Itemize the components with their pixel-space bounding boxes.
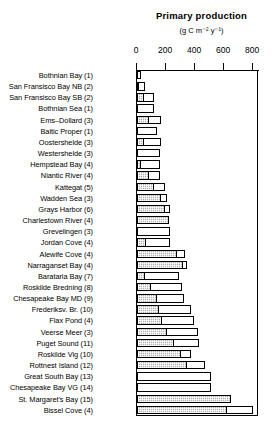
bar-segment-hatched xyxy=(137,361,187,369)
bar-row: St. Margaret's Bay (15) xyxy=(0,394,273,405)
bar-segment-open xyxy=(177,250,185,258)
bar-segment-open xyxy=(146,238,171,246)
stacked-bar xyxy=(137,272,179,280)
bar-segment-open xyxy=(174,339,199,347)
bar-segment-open xyxy=(139,82,145,90)
bar-segment-open xyxy=(149,116,161,124)
bar-row-label: Rottnest Island (12) xyxy=(30,360,94,371)
x-axis-tick-mark xyxy=(165,63,166,70)
bar-row-label: Wadden Sea (3) xyxy=(40,193,93,204)
bar-segment-open xyxy=(137,127,157,135)
x-axis-tick-mark xyxy=(136,63,137,70)
x-axis-tick-label: 0 xyxy=(134,45,139,55)
bar-segment-open xyxy=(145,272,179,280)
bar-row: Bothnian Bay (1) xyxy=(0,70,273,81)
bar-segment-open xyxy=(165,205,171,213)
stacked-bar xyxy=(137,383,211,391)
bar-row: San Fransisco Bay NB (2) xyxy=(0,81,273,92)
bar-row-label: Bothnian Bay (1) xyxy=(39,70,93,81)
bar-row-label: Frederiksv. Br. (10) xyxy=(32,304,93,315)
bar-row: Veerse Meer (3) xyxy=(0,327,273,338)
stacked-bar xyxy=(137,138,161,146)
bar-segment-open xyxy=(137,227,170,235)
page-title: Primary production xyxy=(130,10,273,21)
bar-row-label: San Fransisco Bay SB (2) xyxy=(9,92,93,103)
bar-row: Kattegat (5) xyxy=(0,182,273,193)
bar-segment-hatched xyxy=(137,250,177,258)
stacked-bar xyxy=(137,82,145,90)
bar-segment-hatched xyxy=(137,183,154,191)
bar-row-label: Ems–Dollard (3) xyxy=(40,115,93,126)
bar-segment-hatched xyxy=(137,316,162,324)
bar-segment-hatched xyxy=(137,350,181,358)
stacked-bar xyxy=(137,227,170,235)
bar-segment-open xyxy=(151,283,182,291)
bar-row: Bothnian Sea (1) xyxy=(0,103,273,114)
bar-segment-hatched xyxy=(137,216,169,224)
stacked-bar xyxy=(137,339,199,347)
bar-row: Great South Bay (13) xyxy=(0,371,273,382)
stacked-bar xyxy=(137,395,231,403)
x-axis-tick-label: 400 xyxy=(187,45,201,55)
bar-segment-hatched xyxy=(137,272,145,280)
bar-row-label: Charlestown River (4) xyxy=(23,215,93,226)
bar-segment-open xyxy=(137,372,211,380)
bar-segment-hatched xyxy=(137,294,157,302)
bar-segment-hatched xyxy=(137,328,167,336)
bar-row: Chesapeake Bay MD (9) xyxy=(0,293,273,304)
bar-segment-open xyxy=(159,305,192,313)
bar-row-label: Baltic Proper (1) xyxy=(40,126,93,137)
stacked-bar xyxy=(137,205,170,213)
bar-row: Frederiksv. Br. (10) xyxy=(0,304,273,315)
bar-row: Puget Sound (11) xyxy=(0,338,273,349)
bar-row: Rottnest Island (12) xyxy=(0,360,273,371)
stacked-bar xyxy=(137,71,141,79)
bar-row-label: Jordan Cove (4) xyxy=(41,237,93,248)
bar-row-label: Roskilde Bredning (8) xyxy=(23,282,93,293)
bar-row: Hempstead Bay (4) xyxy=(0,159,273,170)
bar-row: Roskilde Vig (10) xyxy=(0,349,273,360)
bar-segment-open xyxy=(181,350,192,358)
x-axis-tick-label: 800 xyxy=(245,45,259,55)
stacked-bar xyxy=(137,127,157,135)
stacked-bar xyxy=(137,216,169,224)
bar-segment-open xyxy=(137,71,141,79)
x-axis-tick-mark xyxy=(252,63,253,70)
bar-segment-hatched xyxy=(137,194,161,202)
bar-row-label: Chesapeake Bay MD (9) xyxy=(13,293,93,304)
bar-segment-open xyxy=(161,194,167,202)
bar-row-label: Barataria Bay (7) xyxy=(38,271,93,282)
bar-segment-open xyxy=(154,183,164,191)
stacked-bar xyxy=(137,294,184,302)
bar-row: Charlestown River (4) xyxy=(0,215,273,226)
bar-row: Wadden Sea (3) xyxy=(0,193,273,204)
stacked-bar xyxy=(137,328,198,336)
bar-row: Jordan Cove (4) xyxy=(0,237,273,248)
bar-segment-open xyxy=(167,328,198,336)
x-axis-tick-mark xyxy=(194,63,195,70)
stacked-bar xyxy=(137,316,194,324)
bar-row-label: Flax Pond (4) xyxy=(49,315,93,326)
bar-segment-open xyxy=(227,406,253,414)
x-axis-tick-mark xyxy=(223,63,224,70)
bar-segment-open xyxy=(183,261,187,269)
bar-row-label: Narraganset Bay (4) xyxy=(27,260,93,271)
bar-row: Roskilde Bredning (8) xyxy=(0,282,273,293)
bar-row-label: Bothnian Sea (1) xyxy=(38,103,93,114)
bar-row-label: Grays Harbor (6) xyxy=(38,204,93,215)
bar-row-label: Puget Sound (11) xyxy=(36,338,93,349)
x-axis-tick-label: 600 xyxy=(216,45,230,55)
bar-segment-open xyxy=(137,149,160,157)
bar-row: Grays Harbor (6) xyxy=(0,204,273,215)
bar-row-label: Kattegat (5) xyxy=(55,182,93,193)
bar-row-label: San Fransisco Bay NB (2) xyxy=(9,81,93,92)
stacked-bar xyxy=(137,283,182,291)
bar-row: Westershelde (3) xyxy=(0,148,273,159)
bar-segment-open xyxy=(144,93,155,101)
stacked-bar xyxy=(137,171,160,179)
chart-header: Primary production (g C m⁻² y⁻¹) xyxy=(130,10,273,35)
stacked-bar xyxy=(137,305,191,313)
bar-segment-hatched xyxy=(137,171,149,179)
bar-row-label: Westershelde (3) xyxy=(38,148,93,159)
bar-row: Flax Pond (4) xyxy=(0,315,273,326)
